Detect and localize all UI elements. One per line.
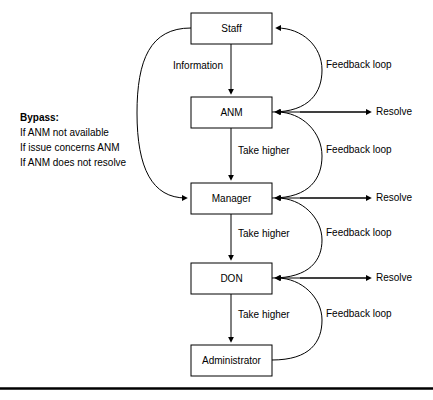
label-feedback-don-manager: Feedback loop <box>326 227 392 238</box>
label-feedback-anm-staff: Feedback loop <box>326 59 392 70</box>
node-don: DON <box>191 263 272 294</box>
label-manager-to-don: Take higher <box>238 228 290 239</box>
node-administrator-label: Administrator <box>202 355 262 366</box>
resolve-edges-group <box>276 112 370 278</box>
bypass-note: Bypass: If ANM not available If issue co… <box>20 112 127 168</box>
label-staff-to-anm: Information <box>173 60 223 71</box>
label-feedback-manager-anm: Feedback loop <box>326 144 392 155</box>
bypass-path-group <box>137 28 191 198</box>
escalation-flowchart: Bypass: If ANM not available If issue co… <box>0 0 433 400</box>
node-staff-label: Staff <box>221 23 242 34</box>
bypass-condition-1: If ANM not available <box>20 127 109 138</box>
feedback-curve-anm-to-staff <box>272 28 322 112</box>
node-administrator: Administrator <box>191 345 272 376</box>
node-staff: Staff <box>191 13 272 44</box>
label-resolve-don: Resolve <box>376 272 413 283</box>
escalation-diagram-container: Bypass: If ANM not available If issue co… <box>0 0 433 400</box>
node-don-label: DON <box>220 273 242 284</box>
bypass-condition-2: If issue concerns ANM <box>20 142 119 153</box>
resolve-labels: Resolve Resolve Resolve <box>376 106 413 283</box>
node-manager: Manager <box>191 183 272 214</box>
label-resolve-manager: Resolve <box>376 192 413 203</box>
label-don-to-admin: Take higher <box>238 309 290 320</box>
label-feedback-admin-don: Feedback loop <box>326 308 392 319</box>
node-anm-label: ANM <box>220 107 242 118</box>
node-anm: ANM <box>191 97 272 128</box>
label-resolve-anm: Resolve <box>376 106 413 117</box>
node-manager-label: Manager <box>212 193 252 204</box>
bypass-condition-3: If ANM does not resolve <box>20 157 127 168</box>
label-anm-to-manager: Take higher <box>238 145 290 156</box>
bypass-note-title: Bypass: <box>20 112 59 123</box>
bypass-curve <box>137 28 191 198</box>
